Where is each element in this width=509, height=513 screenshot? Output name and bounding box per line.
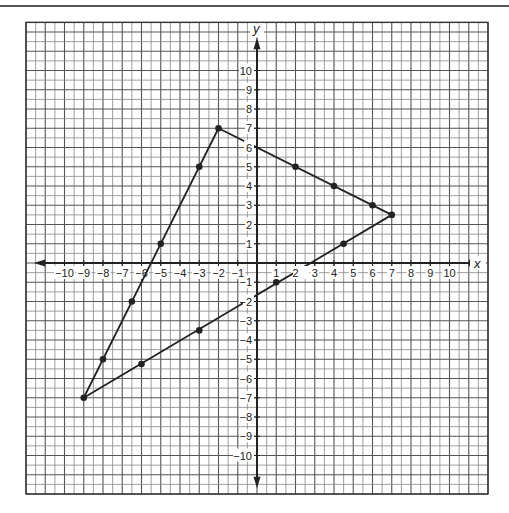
y-tick-label: 5 — [246, 161, 252, 173]
y-tick-label: −5 — [239, 353, 252, 365]
coordinate-plane: −10−9−8−7−6−5−4−3−2−112345678910−10−9−8−… — [0, 0, 509, 513]
data-point — [138, 361, 145, 368]
data-point — [196, 327, 203, 334]
y-tick-label: 7 — [246, 122, 252, 134]
y-tick-label: −1 — [239, 276, 252, 288]
data-point — [340, 240, 347, 247]
x-tick-label: 5 — [350, 267, 356, 279]
data-point — [388, 212, 395, 219]
svg-text:−2: −2 — [239, 296, 252, 308]
x-axis-label: x — [473, 256, 481, 271]
y-tick-label: −10 — [233, 450, 252, 462]
x-tick-label: 1 — [273, 267, 279, 279]
svg-text:6: 6 — [246, 142, 252, 154]
y-tick-label: 9 — [246, 84, 252, 96]
y-tick-label: −9 — [239, 430, 252, 442]
data-point — [369, 202, 376, 209]
y-tick-label: −6 — [239, 373, 252, 385]
tick-labels: −10−9−8−7−6−5−4−3−2−112345678910−10−9−8−… — [54, 23, 486, 461]
data-point — [157, 240, 164, 247]
data-point — [100, 356, 107, 363]
x-tick-label: 8 — [408, 267, 414, 279]
data-point — [196, 163, 203, 170]
data-point — [273, 279, 280, 286]
x-tick-label: 10 — [443, 267, 455, 279]
data-point — [80, 394, 87, 401]
x-tick-label: −2 — [212, 267, 225, 279]
y-tick-label: −4 — [239, 334, 252, 346]
x-tick-label: 6 — [369, 267, 375, 279]
y-tick-label: 1 — [246, 238, 252, 250]
x-tick-label: −5 — [154, 267, 167, 279]
x-tick-label: −10 — [55, 267, 74, 279]
y-tick-label: 2 — [246, 219, 252, 231]
y-tick-label: 8 — [246, 103, 252, 115]
data-point — [331, 183, 338, 190]
x-tick-label: −8 — [97, 267, 110, 279]
axes — [34, 38, 481, 488]
y-tick-label: 4 — [246, 180, 252, 192]
y-tick-label: 10 — [240, 65, 252, 77]
x-tick-label: −4 — [174, 267, 187, 279]
x-tick-label: 9 — [427, 267, 433, 279]
x-tick-label: −3 — [193, 267, 206, 279]
y-tick-label: −7 — [239, 392, 252, 404]
y-tick-label: 3 — [246, 199, 252, 211]
x-tick-label: 4 — [331, 267, 337, 279]
x-tick-label: 3 — [312, 267, 318, 279]
y-tick-label: −8 — [239, 411, 252, 423]
x-tick-label: 7 — [389, 267, 395, 279]
data-point — [292, 163, 299, 170]
data-point — [129, 298, 136, 305]
svg-text:2: 2 — [292, 267, 298, 279]
x-tick-label: −7 — [116, 267, 129, 279]
y-tick-label: −3 — [239, 315, 252, 327]
data-point — [215, 125, 222, 132]
x-tick-label: −9 — [77, 267, 90, 279]
